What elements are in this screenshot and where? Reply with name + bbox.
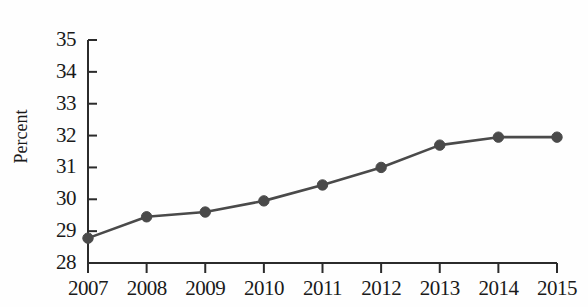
line-chart: Percent 2829303132333435 200720082009201… [0, 0, 588, 307]
y-axis-ticks [88, 40, 97, 263]
data-point [200, 207, 210, 217]
data-point [552, 132, 562, 142]
axis-lines [88, 40, 557, 263]
data-point [141, 212, 151, 222]
plot-area [0, 0, 588, 307]
data-point [493, 132, 503, 142]
data-point [259, 196, 269, 206]
x-axis-ticks [88, 263, 557, 273]
data-point [83, 233, 93, 243]
data-point [376, 162, 386, 172]
data-point [435, 140, 445, 150]
data-point [317, 180, 327, 190]
data-point-markers [83, 132, 562, 243]
